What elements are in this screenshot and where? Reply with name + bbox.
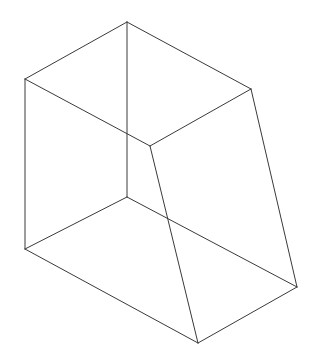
wireframe-drawing [0,0,319,357]
drawing-background [0,0,319,357]
figure-canvas [0,0,319,357]
